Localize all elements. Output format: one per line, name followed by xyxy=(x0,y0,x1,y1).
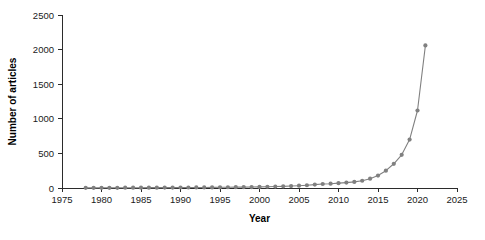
x-tick-label: 2000 xyxy=(249,194,270,205)
series-markers xyxy=(84,43,428,190)
data-point xyxy=(273,184,277,188)
data-point xyxy=(242,185,246,189)
x-tick-label: 1995 xyxy=(209,194,230,205)
data-point xyxy=(218,185,222,189)
data-point xyxy=(139,186,143,190)
data-point xyxy=(178,185,182,189)
data-point xyxy=(415,108,419,112)
y-tick-label: 2000 xyxy=(33,44,54,55)
line-chart: 05001000150020002500 1975198019851990199… xyxy=(0,0,485,240)
data-point xyxy=(123,186,127,190)
x-tick-label: 1975 xyxy=(51,194,72,205)
y-tick-label: 1000 xyxy=(33,113,54,124)
series-line-number-of-articles xyxy=(86,45,426,187)
y-tick-label: 1500 xyxy=(33,79,54,90)
data-point xyxy=(368,177,372,181)
data-point xyxy=(147,186,151,190)
x-tick-label: 2015 xyxy=(367,194,388,205)
data-point xyxy=(210,185,214,189)
data-point xyxy=(352,180,356,184)
data-point xyxy=(131,186,135,190)
data-point xyxy=(423,43,427,47)
x-tick-label: 1985 xyxy=(130,194,151,205)
x-tick-label: 2010 xyxy=(328,194,349,205)
data-point xyxy=(329,182,333,186)
data-point xyxy=(99,186,103,190)
data-point xyxy=(384,169,388,173)
data-point xyxy=(265,185,269,189)
y-tick-label: 0 xyxy=(49,183,54,194)
data-point xyxy=(281,184,285,188)
data-point xyxy=(92,186,96,190)
data-point xyxy=(202,185,206,189)
data-point xyxy=(186,185,190,189)
y-axis-title: Number of articles xyxy=(7,57,18,145)
data-point xyxy=(313,183,317,187)
data-point xyxy=(400,153,404,157)
data-point xyxy=(163,185,167,189)
data-point xyxy=(336,181,340,185)
data-point xyxy=(115,186,119,190)
data-point xyxy=(250,185,254,189)
data-point xyxy=(234,185,238,189)
data-point xyxy=(257,185,261,189)
y-axis-ticks: 05001000150020002500 xyxy=(33,10,62,194)
data-point xyxy=(305,183,309,187)
data-point xyxy=(155,186,159,190)
data-point xyxy=(297,184,301,188)
chart-container: 05001000150020002500 1975198019851990199… xyxy=(0,0,485,240)
data-point xyxy=(344,181,348,185)
data-point xyxy=(84,186,88,190)
y-tick-label: 2500 xyxy=(33,10,54,21)
x-tick-label: 2005 xyxy=(288,194,309,205)
data-point xyxy=(289,184,293,188)
data-point xyxy=(171,185,175,189)
data-point xyxy=(321,182,325,186)
data-point xyxy=(376,173,380,177)
x-tick-label: 2020 xyxy=(407,194,428,205)
y-tick-label: 500 xyxy=(38,148,54,159)
x-axis-ticks: 1975198019851990199520002005201020152020… xyxy=(51,188,467,205)
data-point xyxy=(392,162,396,166)
x-tick-label: 1990 xyxy=(170,194,191,205)
data-point xyxy=(408,137,412,141)
data-point xyxy=(360,179,364,183)
x-tick-label: 2025 xyxy=(446,194,467,205)
data-point xyxy=(226,185,230,189)
data-point xyxy=(107,186,111,190)
data-point xyxy=(194,185,198,189)
x-axis-title: Year xyxy=(249,213,270,224)
x-tick-label: 1980 xyxy=(91,194,112,205)
